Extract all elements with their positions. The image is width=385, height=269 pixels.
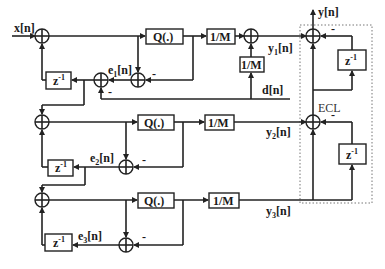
minus-sign: -	[108, 85, 112, 99]
y1-label: y1[n]	[268, 41, 293, 57]
svg-text:1/M: 1/M	[241, 58, 262, 72]
y3-label: y3[n]	[266, 204, 291, 220]
input-x-label: x[n]	[14, 21, 35, 35]
adder-2e	[119, 160, 133, 174]
adder-1d	[244, 29, 258, 43]
block-diagram: ECL x[n] Q(.) 1/M y1[n]	[0, 0, 385, 269]
svg-text:Q(.): Q(.)	[153, 30, 173, 44]
quantizer-block-1: Q(.)	[146, 29, 183, 44]
e3-label: e3[n]	[78, 229, 102, 245]
output-y-label: y[n]	[318, 5, 339, 19]
svg-text:Q(.): Q(.)	[144, 194, 164, 208]
adder-2a	[35, 115, 49, 129]
e1-label: e1[n]	[108, 63, 132, 79]
svg-text:1/M: 1/M	[210, 30, 231, 44]
delay-block-ecl-1: z-1	[338, 50, 366, 70]
quantizer-block-3: Q(.)	[138, 193, 174, 208]
svg-text:-: -	[142, 153, 146, 167]
stage-2: Q(.) 1/M y2[n] - e2[n] z-1	[35, 115, 306, 192]
delay-block-2: z-1	[48, 160, 73, 176]
delay-block-3: z-1	[45, 234, 72, 251]
svg-text:-: -	[152, 67, 156, 81]
y2-label: y2[n]	[266, 125, 291, 141]
quantizer-block-2: Q(.)	[138, 115, 174, 130]
svg-text:-: -	[331, 108, 335, 122]
scale-block-2: 1/M	[205, 115, 234, 130]
ecl-label: ECL	[318, 101, 341, 115]
adder-1a	[35, 29, 49, 43]
delay-block-1: z-1	[46, 72, 71, 89]
delay-block-ecl-2: z-1	[339, 144, 366, 164]
adder-out-top	[306, 29, 320, 43]
adder-out-mid	[306, 115, 320, 129]
e2-label: e2[n]	[90, 151, 114, 167]
svg-text:-: -	[142, 230, 146, 244]
adder-1f	[94, 73, 108, 87]
input-d-label: d[n]	[262, 83, 283, 97]
stage-3: Q(.) 1/M y3[n] - e3[n] z-1	[35, 193, 352, 252]
svg-text:1/M: 1/M	[208, 116, 229, 130]
scale-block-d: 1/M	[240, 57, 264, 72]
adder-3a	[35, 193, 49, 207]
scale-block-3: 1/M	[209, 193, 239, 208]
adder-1e	[131, 73, 145, 87]
svg-text:Q(.): Q(.)	[144, 116, 164, 130]
adder-3e	[119, 238, 133, 252]
svg-text:1/M: 1/M	[213, 194, 234, 208]
svg-text:-: -	[331, 22, 335, 36]
scale-block-1: 1/M	[207, 29, 235, 44]
stage-1: x[n] Q(.) 1/M y1[n] 1/M	[12, 21, 306, 114]
